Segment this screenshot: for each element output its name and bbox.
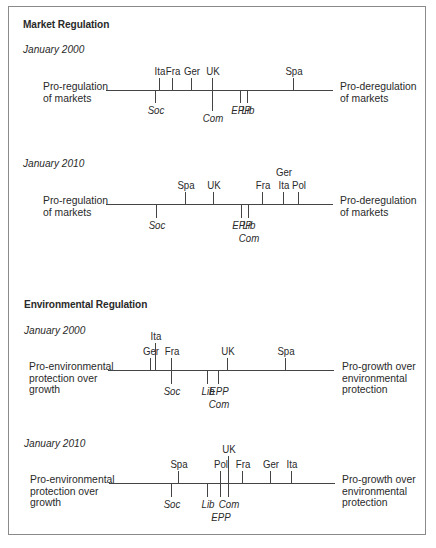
country-tick <box>298 192 299 204</box>
country-label: Spa <box>170 459 187 470</box>
party-tick <box>156 204 157 218</box>
axis-line-market-2010 <box>106 204 333 205</box>
country-label: Ita <box>278 180 289 191</box>
party-label: Com <box>218 499 238 510</box>
country-label: Ita <box>154 66 165 77</box>
country-tick <box>285 358 286 370</box>
party-tick <box>171 370 172 384</box>
country-label: Fra <box>164 346 179 357</box>
party-tick <box>248 204 249 218</box>
axis-line-env-2010 <box>109 483 335 484</box>
country-label: UK <box>207 180 220 191</box>
country-label: Pol <box>292 180 306 191</box>
party-tick <box>247 90 248 103</box>
party-label: Lib <box>242 220 255 231</box>
party-label: Com <box>238 233 258 244</box>
country-tick <box>191 78 192 90</box>
party-label: Com <box>202 113 222 124</box>
country-tick <box>242 471 243 483</box>
country-tick <box>172 78 173 90</box>
party-tick <box>228 483 229 497</box>
party-label: Soc <box>163 386 180 397</box>
country-label: Pol <box>214 459 228 470</box>
party-label: Soc <box>163 499 180 510</box>
party-tick <box>212 90 213 111</box>
country-label: Fra <box>255 180 270 191</box>
panel-title-env-2010: January 2010 <box>24 437 85 449</box>
axis-line-env-2000 <box>108 370 334 371</box>
country-label: Ger <box>275 167 291 178</box>
party-label: Lib <box>201 499 214 510</box>
country-tick <box>212 78 213 90</box>
country-label: Ger <box>262 459 278 470</box>
party-label: EPP <box>209 386 228 397</box>
panel-title-market-2000: January 2000 <box>23 43 84 55</box>
country-label: Ger <box>142 346 158 357</box>
party-label: Soc <box>147 105 164 116</box>
panel-title-env-2000: January 2000 <box>24 324 85 336</box>
country-tick <box>178 471 179 483</box>
country-tick <box>150 358 151 370</box>
party-label: Lib <box>241 105 254 116</box>
party-tick <box>240 90 241 103</box>
country-tick <box>220 471 221 483</box>
axis-right-label-market-2010: Pro-deregulation of markets <box>340 195 417 218</box>
axis-right-label-env-2000: Pro-growth over environmental protection <box>342 361 416 396</box>
party-tick <box>218 370 219 384</box>
country-tick <box>228 456 229 483</box>
panel-title-market-2010: January 2010 <box>23 157 84 169</box>
axis-line-market-2000 <box>106 90 333 91</box>
country-label: UK <box>206 66 219 77</box>
country-label: UK <box>221 346 234 357</box>
axis-right-label-env-2010: Pro-growth over environmental protection <box>342 474 416 509</box>
country-tick <box>291 471 292 483</box>
party-label: EPP <box>211 512 230 523</box>
party-tick <box>155 90 156 103</box>
axis-left-label-env-2000: Pro-environmental protection over growth <box>29 361 114 396</box>
country-label: Ita <box>150 331 161 342</box>
country-label: Fra <box>165 66 180 77</box>
section-title-environmental-regulation: Environmental Regulation <box>24 298 147 310</box>
country-tick <box>262 192 263 204</box>
section-title-market-regulation: Market Regulation <box>23 18 109 30</box>
country-tick <box>283 192 284 204</box>
country-tick <box>185 192 186 204</box>
country-tick <box>293 78 294 90</box>
party-tick <box>171 483 172 497</box>
party-tick <box>241 204 242 218</box>
country-label: Fra <box>235 459 250 470</box>
country-tick <box>270 471 271 483</box>
axis-right-label-market-2000: Pro-deregulation of markets <box>340 81 417 104</box>
country-tick <box>171 358 172 370</box>
country-tick <box>159 78 160 90</box>
party-tick <box>207 483 208 497</box>
country-label: Spa <box>285 66 302 77</box>
axis-left-label-env-2010: Pro-environmental protection over growth <box>30 474 115 509</box>
country-label: Spa <box>177 180 194 191</box>
country-label: Ita <box>286 459 297 470</box>
country-label: UK <box>222 444 235 455</box>
country-label: Spa <box>277 346 294 357</box>
axis-left-label-market-2010: Pro-regulation of markets <box>43 195 108 218</box>
party-tick <box>220 483 221 497</box>
party-label: Com <box>208 399 228 410</box>
country-tick <box>213 192 214 204</box>
country-tick <box>155 343 156 370</box>
party-tick <box>207 370 208 384</box>
country-tick <box>227 358 228 370</box>
party-label: Soc <box>148 220 165 231</box>
axis-left-label-market-2000: Pro-regulation of markets <box>43 81 108 104</box>
country-label: Ger <box>183 66 199 77</box>
